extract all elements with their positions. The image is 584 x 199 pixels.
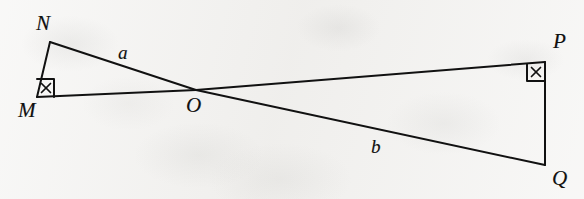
side-label-b: b	[371, 137, 381, 156]
vertex-label-O: O	[186, 95, 201, 116]
angle-x-mark-M-icon	[42, 84, 51, 93]
segment-OP	[196, 62, 545, 90]
segments-group	[37, 42, 545, 165]
side-label-a: a	[118, 43, 128, 62]
segment-MO	[37, 90, 196, 97]
vertex-label-N: N	[36, 13, 50, 34]
vertex-label-Q: Q	[552, 168, 567, 189]
angle-x-mark-P-icon	[532, 68, 541, 77]
vertex-label-M: M	[18, 100, 36, 121]
segment-MN	[37, 42, 50, 97]
geometry-figure: N M O P Q a b	[0, 0, 584, 199]
right-angle-mark-P	[527, 64, 545, 81]
diagram-canvas	[0, 0, 584, 199]
vertex-label-P: P	[553, 31, 566, 52]
